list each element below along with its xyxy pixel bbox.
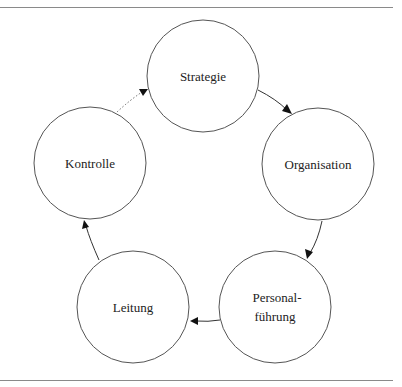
node-label-line-2: führung [254,309,296,324]
node-leitung: Leitung [77,251,189,363]
arrowhead-icon [190,317,198,325]
node-strategie: Strategie [147,20,259,132]
node-label: Kontrolle [65,156,115,171]
node-personalfuehrung: Personal- führung [219,251,331,363]
edge-strategie-organisation [258,90,287,110]
node-organisation: Organisation [262,108,374,220]
arrowhead-icon [282,104,292,114]
diagram-canvas: Strategie Organisation Personal- führung… [0,0,402,387]
edge-personalfuehrung-leitung [196,320,220,321]
node-label: Strategie [180,69,226,84]
edge-organisation-personalfuehrung [310,221,322,253]
arrowhead-icon [139,89,148,96]
node-label-line-1: Personal- [252,290,301,305]
cycle-diagram: Strategie Organisation Personal- führung… [0,0,402,387]
node-kontrolle: Kontrolle [34,107,146,219]
arrowhead-icon [82,220,89,229]
node-label: Organisation [285,157,352,172]
edge-leitung-kontrolle [86,226,99,260]
edge-kontrolle-strategie [117,92,142,112]
node-label: Leitung [113,300,154,315]
